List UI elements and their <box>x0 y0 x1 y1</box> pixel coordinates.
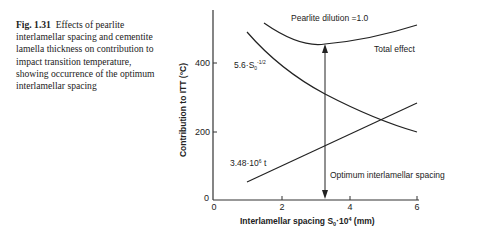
x-tick-label: 4 <box>347 202 352 212</box>
optimum-spacing-label: Optimum interlamellar spacing <box>330 170 445 180</box>
x-tick-label: 2 <box>279 202 284 212</box>
arrow-head-down-icon <box>322 190 328 199</box>
y-axis-label: Contribution to ITT (°C) <box>178 63 188 157</box>
pearlite-dilution-label: Pearlite dilution =1.0 <box>291 13 369 23</box>
x-axis-label: Interlamellar spacing S0·104 (mm) <box>240 216 375 227</box>
arrow-head-up-icon <box>322 44 328 53</box>
x-tick-label: 6 <box>414 202 419 212</box>
y-tick-label: 0 <box>204 193 209 203</box>
total-effect-label: Total effect <box>374 44 416 54</box>
thickness-term-label: 3.48·106 t <box>230 158 267 168</box>
x-tick-label: 0 <box>211 202 216 212</box>
y-tick-label: 200 <box>195 127 210 137</box>
y-tick-label: 400 <box>195 58 210 68</box>
total-effect-curve <box>264 23 417 45</box>
chart: 400 200 0 0 2 4 6 Interlamellar spacing … <box>0 0 478 239</box>
grain-term-label: 5.6·S0-1/2 <box>234 59 266 71</box>
